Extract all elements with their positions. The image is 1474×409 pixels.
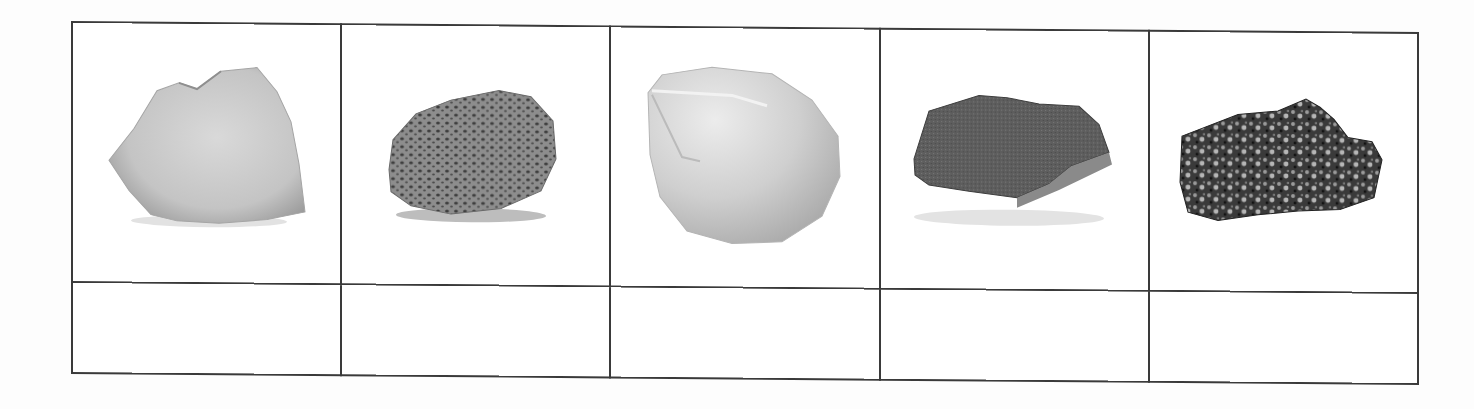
sandstone-rock-icon	[881, 30, 1148, 290]
pumice-rock-icon	[342, 25, 609, 285]
rock-label-cell-3[interactable]	[610, 286, 879, 379]
rock-cell-4	[880, 29, 1149, 291]
rock-label-text	[881, 334, 1148, 336]
rock-cell-3	[610, 26, 879, 288]
rock-cell-2	[341, 24, 610, 286]
worksheet-page	[0, 0, 1474, 409]
rock-image-row	[72, 22, 1418, 293]
rock-cell-5	[1149, 31, 1418, 293]
granite-rock-icon	[1150, 32, 1417, 292]
quartzite-rock-icon	[73, 23, 340, 283]
rock-label-cell-5[interactable]	[1149, 291, 1418, 384]
chalk-rock-icon	[611, 27, 878, 287]
rock-identification-table	[71, 21, 1419, 385]
rock-label-text	[1150, 336, 1417, 338]
rock-label-row	[72, 282, 1418, 384]
rock-label-text	[611, 332, 878, 334]
rock-label-cell-4[interactable]	[880, 289, 1149, 382]
rock-label-text	[73, 328, 340, 330]
rock-cell-1	[72, 22, 341, 284]
rock-label-cell-2[interactable]	[341, 284, 610, 377]
rock-label-text	[342, 330, 609, 332]
rock-label-cell-1[interactable]	[72, 282, 341, 375]
